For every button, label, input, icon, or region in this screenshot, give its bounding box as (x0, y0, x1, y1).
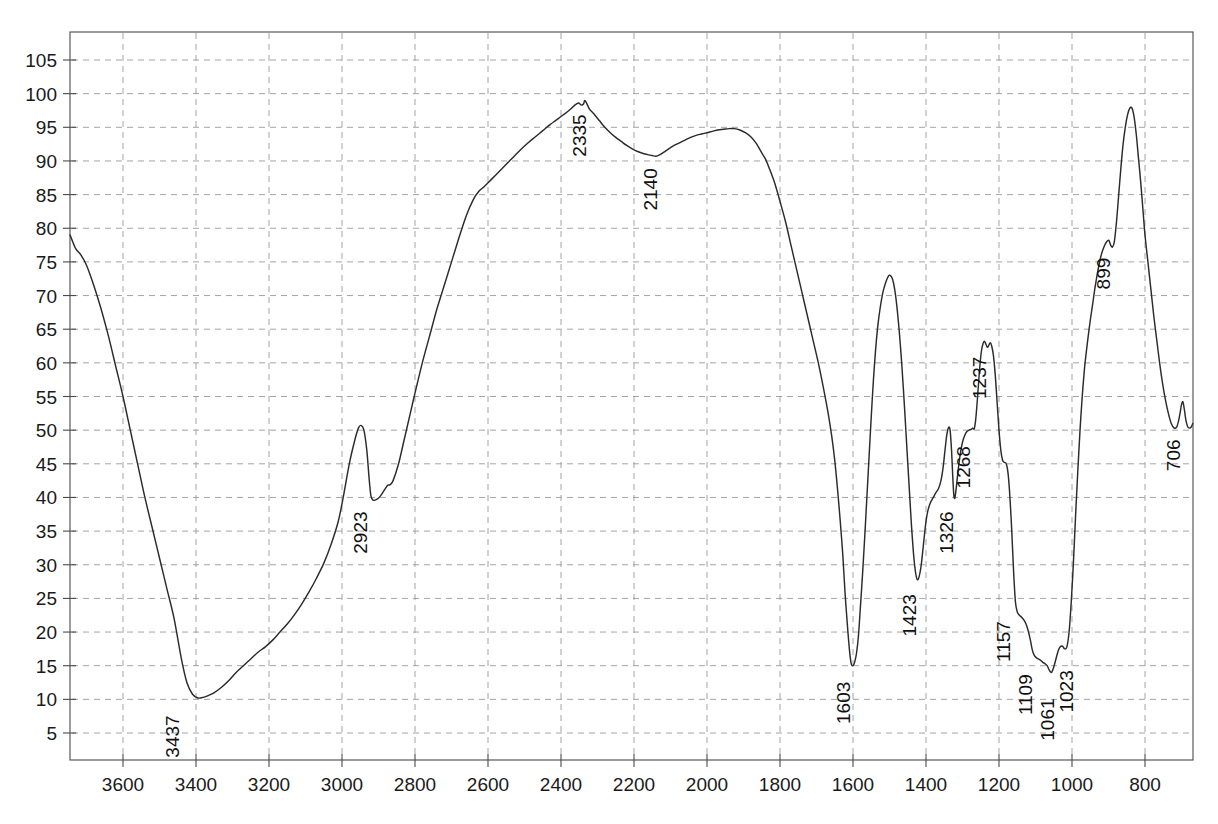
ytick-label: 10 (36, 689, 57, 710)
peak-label-2335: 2335 (569, 114, 590, 156)
ytick-label: 85 (36, 185, 57, 206)
ytick-label: 90 (36, 151, 57, 172)
xtick-label: 2400 (540, 774, 582, 795)
peak-label-2923: 2923 (350, 511, 371, 553)
xtick-label: 1000 (1051, 774, 1093, 795)
peak-label-706: 706 (1163, 439, 1184, 471)
xtick-label: 1200 (978, 774, 1020, 795)
peak-label-1603: 1603 (833, 682, 854, 724)
ytick-label: 55 (36, 387, 57, 408)
peak-label-1268: 1268 (953, 446, 974, 488)
peak-label-3437: 3437 (162, 715, 183, 757)
ytick-label: 60 (36, 353, 57, 374)
ytick-label: 35 (36, 521, 57, 542)
ytick-label: 45 (36, 454, 57, 475)
peak-label-1061: 1061 (1037, 698, 1058, 740)
xtick-label: 1800 (759, 774, 801, 795)
ytick-label: 75 (36, 252, 57, 273)
xtick-label: 3400 (175, 774, 217, 795)
plot-frame (70, 32, 1193, 760)
xtick-label: 3000 (321, 774, 363, 795)
peak-label-1109: 1109 (1015, 674, 1036, 715)
ytick-label: 80 (36, 218, 57, 239)
ytick-label: 100 (25, 84, 57, 105)
xtick-label: 2200 (613, 774, 655, 795)
peak-label-1237: 1237 (969, 357, 990, 399)
peak-label-1423: 1423 (899, 594, 920, 636)
xtick-label: 3200 (248, 774, 290, 795)
spectrum-curve-group (70, 100, 1193, 698)
xtick-label: 800 (1129, 774, 1161, 795)
xtick-label: 1400 (905, 774, 947, 795)
spectrum-curve (70, 100, 1193, 698)
xtick-label: 2600 (467, 774, 509, 795)
ytick-label: 40 (36, 487, 57, 508)
gridlines (72, 33, 1192, 759)
plot-area: 5101520253035404550556065707580859095100… (0, 0, 1218, 824)
ytick-label: 95 (36, 117, 57, 138)
ytick-label: 65 (36, 319, 57, 340)
peak-label-1157: 1157 (993, 621, 1014, 662)
ytick-label: 15 (36, 656, 57, 677)
ytick-label: 50 (36, 420, 57, 441)
xtick-label: 1600 (832, 774, 874, 795)
peak-label-2140: 2140 (640, 168, 661, 210)
ytick-label: 25 (36, 588, 57, 609)
ytick-label: 30 (36, 555, 57, 576)
ytick-label: 5 (46, 723, 57, 744)
xtick-label: 2000 (686, 774, 728, 795)
peak-annotations: 3437292323352140160314231326126812371157… (162, 114, 1184, 757)
tick-marks (63, 60, 1145, 767)
ytick-label: 20 (36, 622, 57, 643)
peak-label-1023: 1023 (1056, 670, 1077, 712)
ir-spectrum-figure: 5101520253035404550556065707580859095100… (0, 0, 1218, 824)
peak-label-899: 899 (1093, 258, 1114, 290)
peak-label-1326: 1326 (936, 511, 957, 553)
spectrum-chart: 5101520253035404550556065707580859095100… (0, 0, 1218, 824)
ytick-label: 105 (25, 50, 57, 71)
ytick-label: 70 (36, 286, 57, 307)
xtick-label: 2800 (394, 774, 436, 795)
xtick-label: 3600 (102, 774, 144, 795)
